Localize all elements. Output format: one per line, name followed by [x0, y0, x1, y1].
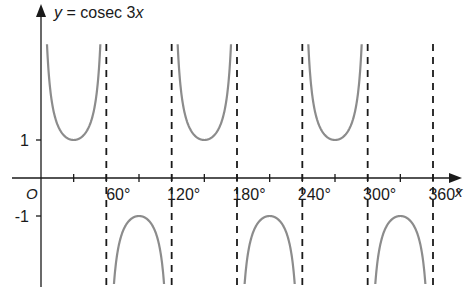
x-tick-label: 60° — [106, 186, 130, 203]
cosec-branch — [114, 216, 164, 284]
axis-labels: y = cosec 3x x O 60°120°180°240°300°360°… — [15, 4, 463, 225]
x-tick-label: 240° — [298, 186, 331, 203]
cosec-chart: y = cosec 3x x O 60°120°180°240°300°360°… — [0, 0, 469, 287]
x-axis-arrow-icon — [449, 173, 462, 183]
x-tick-label: 180° — [232, 186, 265, 203]
cosec-branch — [245, 216, 295, 284]
asymptote-lines — [106, 44, 433, 287]
y-axis-arrow-icon — [36, 4, 46, 17]
cosec-branch — [375, 216, 425, 284]
y-tick-label: 1 — [20, 132, 29, 149]
chart-title: y = cosec 3x — [53, 4, 144, 21]
cosec-branch — [47, 44, 100, 140]
x-tick-label: 300° — [363, 186, 396, 203]
y-tick-label: -1 — [15, 208, 29, 225]
cosec-branch — [178, 44, 231, 140]
x-tick-label: 360° — [428, 186, 461, 203]
cosec-branch — [308, 44, 361, 140]
x-tick-label: 120° — [167, 186, 200, 203]
origin-label: O — [26, 185, 38, 202]
